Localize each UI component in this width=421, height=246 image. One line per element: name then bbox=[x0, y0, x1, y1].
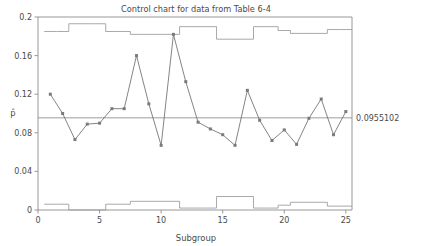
data-point-marker bbox=[246, 89, 249, 92]
data-point-marker bbox=[283, 128, 286, 131]
data-point-marker bbox=[123, 107, 126, 110]
x-tick-label: 20 bbox=[279, 216, 289, 225]
data-point-marker bbox=[160, 144, 163, 147]
y-tick-label: 0.2 bbox=[19, 13, 32, 22]
data-point-marker bbox=[344, 110, 347, 113]
data-point-marker bbox=[332, 133, 335, 136]
y-tick-label: 0.04 bbox=[14, 167, 32, 176]
data-point-marker bbox=[49, 93, 52, 96]
data-point-marker bbox=[61, 112, 64, 115]
x-tick-label: 25 bbox=[341, 216, 351, 225]
chart-background bbox=[0, 0, 421, 246]
data-point-marker bbox=[135, 54, 138, 57]
data-point-marker bbox=[197, 121, 200, 124]
y-tick-label: 0.16 bbox=[14, 52, 32, 61]
data-point-marker bbox=[307, 117, 310, 120]
x-axis-title: Subgroup bbox=[176, 233, 216, 243]
y-tick-label: 0.12 bbox=[14, 90, 32, 99]
chart-title: Control chart for data from Table 6-4 bbox=[121, 4, 271, 14]
center-line-value-label: 0.0955102 bbox=[356, 114, 399, 123]
data-point-marker bbox=[98, 122, 101, 125]
data-point-marker bbox=[184, 80, 187, 83]
data-point-marker bbox=[86, 123, 89, 126]
y-tick-label: 0 bbox=[27, 206, 32, 215]
data-point-marker bbox=[172, 33, 175, 36]
data-point-marker bbox=[258, 119, 261, 122]
data-point-marker bbox=[209, 127, 212, 130]
data-point-marker bbox=[270, 139, 273, 142]
data-point-marker bbox=[147, 102, 150, 105]
y-axis-title: p̂ bbox=[10, 108, 15, 118]
y-tick-label: 0.08 bbox=[14, 129, 32, 138]
data-point-marker bbox=[221, 133, 224, 136]
x-tick-label: 5 bbox=[97, 216, 102, 225]
chart-canvas: Control chart for data from Table 6-4 00… bbox=[0, 0, 421, 246]
x-tick-label: 0 bbox=[35, 216, 40, 225]
control-chart-figure: Control chart for data from Table 6-4 00… bbox=[0, 0, 421, 246]
data-point-marker bbox=[234, 144, 237, 147]
data-point-marker bbox=[73, 138, 76, 141]
data-point-marker bbox=[320, 98, 323, 101]
x-tick-label: 10 bbox=[156, 216, 166, 225]
data-point-marker bbox=[295, 143, 298, 146]
x-tick-label: 15 bbox=[218, 216, 228, 225]
data-point-marker bbox=[110, 107, 113, 110]
